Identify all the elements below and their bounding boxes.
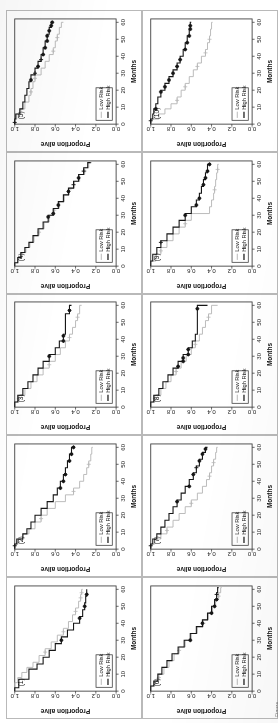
svg-text:High Risk: High Risk [241,227,247,252]
svg-text:Low Risk: Low Risk [234,228,240,251]
svg-text:60: 60 [255,302,262,309]
figure-caption: Figure [274,702,278,717]
svg-text:10: 10 [119,387,126,394]
km-panel-9: 0102030405060Months0.00.20.40.60.81.0Pro… [142,152,278,294]
svg-text:High Risk: High Risk [241,369,247,394]
svg-text:50: 50 [119,177,126,184]
svg-text:Proportion alive: Proportion alive [176,707,226,715]
svg-text:1.0: 1.0 [146,409,155,416]
svg-text:50: 50 [255,319,262,326]
svg-text:10: 10 [119,103,126,110]
svg-text:0.8: 0.8 [166,409,175,416]
svg-text:60: 60 [119,160,126,167]
svg-text:Months: Months [130,627,137,650]
svg-text:0.4: 0.4 [71,267,80,274]
svg-text:0: 0 [119,547,126,551]
svg-text:0.8: 0.8 [166,693,175,700]
svg-text:(5): (5) [17,111,25,119]
svg-text:0.0: 0.0 [111,693,120,700]
svg-text:0.0: 0.0 [247,125,256,132]
svg-text:20: 20 [255,86,262,93]
km-panel-5: 0102030405060Months0.00.20.40.60.81.0Pro… [6,10,142,152]
svg-text:50: 50 [119,602,126,609]
svg-text:0.8: 0.8 [166,125,175,132]
svg-text:40: 40 [255,336,262,343]
svg-text:(4): (4) [17,253,25,261]
svg-text:60: 60 [119,444,126,451]
svg-text:0.2: 0.2 [227,551,236,558]
svg-text:Months: Months [130,59,137,82]
svg-text:10: 10 [119,528,126,535]
svg-text:0.2: 0.2 [227,693,236,700]
svg-text:0: 0 [255,122,262,126]
svg-text:50: 50 [255,602,262,609]
survival-figure: 0102030405060Months0.00.20.40.60.81.0Pro… [0,0,278,723]
svg-text:0.4: 0.4 [207,125,216,132]
panel-grid: 0102030405060Months0.00.20.40.60.81.0Pro… [6,10,274,719]
svg-text:30: 30 [119,636,126,643]
svg-text:50: 50 [255,177,262,184]
svg-text:Low Risk: Low Risk [98,86,104,109]
km-panel-1: 0102030405060Months0.00.20.40.60.81.0Pro… [6,577,142,719]
svg-text:50: 50 [255,35,262,42]
svg-text:40: 40 [255,477,262,484]
svg-text:Proportion alive: Proportion alive [40,424,90,432]
km-panel-8: 0102030405060Months0.00.20.40.60.81.0Pro… [142,294,278,436]
svg-text:10: 10 [255,528,262,535]
svg-text:Proportion alive: Proportion alive [40,707,90,715]
svg-text:0.8: 0.8 [166,267,175,274]
svg-text:(10): (10) [153,107,161,119]
svg-text:High Risk: High Risk [105,652,111,677]
svg-text:40: 40 [255,619,262,626]
svg-text:Low Risk: Low Risk [234,653,240,676]
svg-text:0.2: 0.2 [91,267,100,274]
svg-text:0.6: 0.6 [50,267,59,274]
svg-text:30: 30 [255,353,262,360]
svg-text:Low Risk: Low Risk [234,512,240,535]
svg-text:10: 10 [255,670,262,677]
svg-text:High Risk: High Risk [241,510,247,535]
svg-text:40: 40 [119,52,126,59]
svg-text:20: 20 [255,228,262,235]
svg-text:0.4: 0.4 [207,267,216,274]
svg-text:High Risk: High Risk [105,369,111,394]
figure-page: 0102030405060Months0.00.20.40.60.81.0Pro… [0,0,278,723]
svg-text:0.4: 0.4 [71,551,80,558]
svg-text:0.8: 0.8 [166,551,175,558]
svg-text:40: 40 [255,52,262,59]
svg-text:Proportion alive: Proportion alive [176,140,226,148]
svg-text:High Risk: High Risk [105,510,111,535]
svg-text:1.0: 1.0 [146,267,155,274]
svg-text:1.0: 1.0 [146,551,155,558]
rotated-figure-wrapper: 0102030405060Months0.00.20.40.60.81.0Pro… [0,0,278,723]
svg-text:10: 10 [119,245,126,252]
svg-text:Months: Months [266,343,273,366]
svg-text:0.0: 0.0 [111,551,120,558]
svg-text:0.6: 0.6 [187,551,196,558]
svg-text:0.8: 0.8 [30,125,39,132]
svg-text:30: 30 [119,494,126,501]
svg-text:0.2: 0.2 [91,551,100,558]
svg-text:Months: Months [266,59,273,82]
svg-text:0: 0 [119,122,126,126]
svg-text:50: 50 [119,461,126,468]
svg-text:30: 30 [255,494,262,501]
svg-text:0.4: 0.4 [207,693,216,700]
svg-text:Proportion alive: Proportion alive [40,140,90,148]
svg-text:40: 40 [255,194,262,201]
svg-text:1.0: 1.0 [146,125,155,132]
svg-text:0.6: 0.6 [50,551,59,558]
svg-text:0.6: 0.6 [50,409,59,416]
km-panel-6: 0102030405060Months0.00.20.40.60.81.0Pro… [142,577,278,719]
svg-text:20: 20 [255,370,262,377]
svg-text:0.0: 0.0 [111,409,120,416]
km-panel-2: 0102030405060Months0.00.20.40.60.81.0Pro… [6,435,142,577]
svg-text:50: 50 [119,319,126,326]
svg-text:0.2: 0.2 [91,409,100,416]
svg-text:0: 0 [119,263,126,267]
svg-text:0.2: 0.2 [91,125,100,132]
svg-text:1.0: 1.0 [10,267,19,274]
svg-text:20: 20 [255,653,262,660]
svg-text:Proportion alive: Proportion alive [176,282,226,290]
svg-text:Months: Months [130,343,137,366]
